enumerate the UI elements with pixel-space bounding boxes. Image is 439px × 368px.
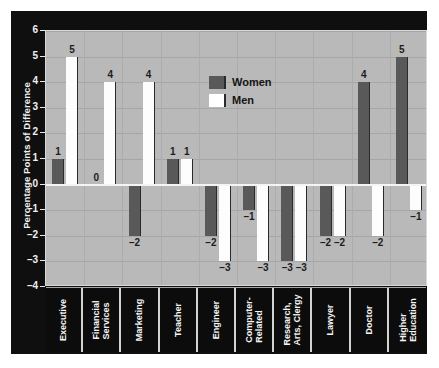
x-axis-category-label: Engineer: [211, 301, 221, 340]
legend-item-men: Men: [209, 92, 319, 108]
x-axis-category-label: Marketing: [134, 299, 144, 342]
x-axis-category-cell: Marketing: [121, 288, 159, 352]
bar-men: [334, 185, 346, 236]
legend-swatch-men-icon: [209, 94, 226, 107]
bar-men: [143, 82, 155, 184]
x-axis-category-label: Teacher: [173, 303, 183, 337]
x-axis-category-label: Executive: [58, 299, 68, 341]
chart-figure: Percentage Points of Difference 6543210–…: [0, 0, 439, 368]
gridline: [46, 57, 426, 58]
y-axis-tick-label: –2: [8, 230, 38, 240]
y-axis-tick-label: –4: [8, 281, 38, 291]
bar-value-label: 5: [391, 45, 413, 55]
plot-area: 10–21–2–1–3–2455441–3–3–3–2–2–1 Women Me…: [45, 30, 427, 286]
bar-value-label: –2: [200, 238, 222, 248]
zero-baseline: [46, 184, 426, 186]
bar-women: [358, 82, 370, 184]
bar-value-label: –2: [329, 238, 351, 248]
x-axis-category-cell: Engineer: [198, 288, 236, 352]
category-divider: [84, 31, 85, 285]
x-axis-category-cell: HigherEducation: [389, 288, 427, 352]
y-axis-tick-label: 4: [8, 76, 38, 86]
bar-value-label: –3: [290, 263, 312, 273]
bar-value-label: 4: [99, 70, 121, 80]
bar-women: [396, 57, 408, 185]
legend-label-men: Men: [232, 94, 254, 106]
legend: Women Men: [209, 74, 319, 110]
y-axis-tick-label: 3: [8, 102, 38, 112]
category-divider: [237, 31, 238, 285]
bar-men: [181, 159, 193, 185]
gridline: [46, 210, 426, 211]
bar-value-label: –3: [214, 263, 236, 273]
bar-men: [257, 185, 269, 262]
y-axis-tick-label: 5: [8, 51, 38, 61]
bar-women: [243, 185, 255, 211]
y-axis-tick-label: 6: [8, 25, 38, 35]
bar-women: [167, 159, 179, 185]
bar-men: [372, 185, 384, 236]
x-axis-category-label: Lawyer: [325, 304, 335, 335]
bar-men: [219, 185, 231, 262]
x-axis-category-cell: Computer-Related: [236, 288, 274, 352]
bar-value-label: –1: [238, 212, 260, 222]
x-axis-category-cell: FinancialServices: [83, 288, 121, 352]
bar-women: [281, 185, 293, 262]
y-axis-tick-label: –3: [8, 255, 38, 265]
bar-women: [205, 185, 217, 236]
x-axis-category-label: Research,Arts, Clergy: [282, 294, 302, 345]
x-axis-category-label: Computer-Related: [244, 297, 264, 343]
legend-swatch-women-icon: [209, 76, 226, 89]
bar-value-label: –1: [405, 212, 427, 222]
frame-top-band: [11, 11, 427, 30]
y-axis-tick-mark: [40, 286, 45, 287]
gridline: [46, 261, 426, 262]
y-axis-tick-label: –1: [8, 204, 38, 214]
gridline: [46, 31, 426, 32]
y-axis-tick-label: 1: [8, 153, 38, 163]
x-axis-category-label: FinancialServices: [91, 300, 111, 339]
x-axis-category-cell: Research,Arts, Clergy: [274, 288, 312, 352]
bar-value-label: –2: [124, 238, 146, 248]
bar-value-label: –3: [252, 263, 274, 273]
y-axis-tick-label: 0: [8, 179, 38, 189]
x-axis-category-label: HigherEducation: [398, 298, 418, 342]
bar-value-label: 5: [61, 45, 83, 55]
bar-women: [52, 159, 64, 185]
category-divider: [161, 31, 162, 285]
bar-men: [66, 57, 78, 185]
y-axis-tick-label: 2: [8, 127, 38, 137]
bar-value-label: –2: [367, 238, 389, 248]
gridline: [46, 236, 426, 237]
bar-men: [104, 82, 116, 184]
bar-women: [129, 185, 141, 236]
bar-value-label: 1: [47, 147, 69, 157]
bar-value-label: 4: [138, 70, 160, 80]
legend-label-women: Women: [232, 76, 272, 88]
x-axis-category-label: Doctor: [364, 306, 374, 335]
x-axis-category-cell: Lawyer: [312, 288, 350, 352]
bar-value-label: 0: [85, 173, 107, 183]
bar-men: [410, 185, 422, 211]
x-axis-category-cell: Executive: [45, 288, 83, 352]
category-divider: [352, 31, 353, 285]
legend-item-women: Women: [209, 74, 319, 90]
bar-women: [320, 185, 332, 236]
x-axis-category-cell: Teacher: [160, 288, 198, 352]
bar-men: [295, 185, 307, 262]
x-axis-category-cell: Doctor: [351, 288, 389, 352]
bar-value-label: 1: [176, 147, 198, 157]
category-divider: [275, 31, 276, 285]
bar-value-label: 4: [353, 70, 375, 80]
category-divider: [390, 31, 391, 285]
